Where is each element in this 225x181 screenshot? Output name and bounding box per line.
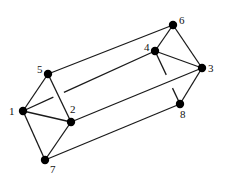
node-7 <box>41 156 49 164</box>
node-label-7: 7 <box>50 163 56 175</box>
node-1 <box>19 107 27 115</box>
edge-1-7 <box>23 111 45 160</box>
nodes-group <box>19 21 206 164</box>
node-label-8: 8 <box>180 108 186 120</box>
edge-6-3 <box>173 25 202 68</box>
node-label-2: 2 <box>70 103 76 115</box>
node-label-6: 6 <box>179 14 185 26</box>
node-5 <box>44 70 52 78</box>
node-8 <box>176 100 184 108</box>
node-4 <box>151 47 159 55</box>
labels-group: 12345678 <box>9 14 214 175</box>
node-label-5: 5 <box>37 63 43 75</box>
graph-diagram: 12345678 <box>0 0 225 181</box>
node-label-1: 1 <box>9 105 15 117</box>
node-label-4: 4 <box>144 41 150 53</box>
node-2 <box>67 118 75 126</box>
edge-1-2 <box>23 111 71 122</box>
edge-1-4 <box>64 51 155 92</box>
node-3 <box>198 64 206 72</box>
edge-3-8 <box>180 68 202 104</box>
edge-7-8 <box>45 104 180 160</box>
node-label-3: 3 <box>208 62 214 74</box>
edges-group <box>23 25 202 160</box>
node-6 <box>169 21 177 29</box>
